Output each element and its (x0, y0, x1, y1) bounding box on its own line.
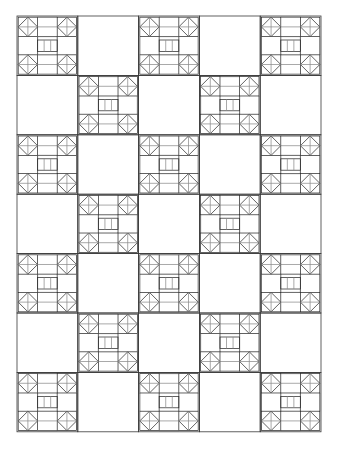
quilt-pattern-canvas (0, 0, 338, 452)
pattern-root (0, 0, 338, 452)
canvas-background (0, 0, 338, 452)
